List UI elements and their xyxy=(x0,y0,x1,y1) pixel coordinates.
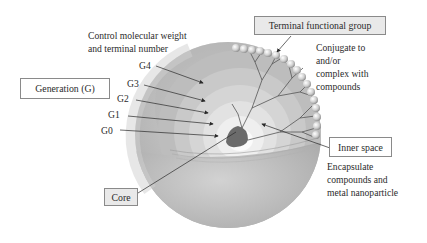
terminal-functional-group-label: Terminal functional group xyxy=(269,20,372,31)
inner-space-label: Inner space xyxy=(338,142,383,153)
core-box: Core xyxy=(104,188,138,206)
control-text-line1: Control molecular weight xyxy=(88,30,187,43)
generation-g0: G0 xyxy=(101,125,113,136)
encapsulate-text-line2: compounds and xyxy=(327,174,388,187)
conjugate-text-line3: complex with xyxy=(316,68,369,81)
dendrimer-illustration xyxy=(0,0,427,243)
generation-label: Generation (G) xyxy=(35,83,95,94)
generation-g3: G3 xyxy=(127,78,139,89)
conjugate-text-line2: and/or xyxy=(316,55,341,68)
conjugate-text-line1: Conjugate to xyxy=(316,42,365,55)
inner-space-box: Inner space xyxy=(329,137,392,157)
terminal-functional-group-box: Terminal functional group xyxy=(254,16,386,35)
generation-g1: G1 xyxy=(108,109,120,120)
terminal-leader-line xyxy=(277,36,291,52)
generation-box: Generation (G) xyxy=(20,78,110,99)
dendrimer-diagram: Control molecular weight and terminal nu… xyxy=(0,0,427,243)
encapsulate-text-line3: metal nanoparticle xyxy=(327,187,398,200)
control-text-line2: and terminal number xyxy=(88,43,168,56)
conjugate-text-line4: compounds xyxy=(316,81,360,94)
encapsulate-text-line1: Encapsulate xyxy=(327,161,373,174)
generation-g2: G2 xyxy=(117,93,129,104)
generation-g4: G4 xyxy=(139,60,151,71)
core-label: Core xyxy=(111,192,130,203)
